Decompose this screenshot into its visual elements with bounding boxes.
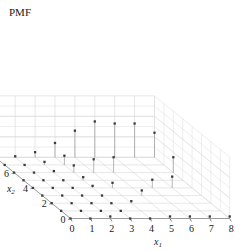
data-marker bbox=[22, 179, 24, 181]
data-marker bbox=[91, 185, 93, 187]
data-marker bbox=[120, 210, 122, 212]
data-marker bbox=[101, 194, 103, 196]
x1-tick-label: 3 bbox=[129, 223, 134, 234]
data-marker bbox=[73, 164, 75, 166]
x1-tick-label: 2 bbox=[109, 223, 114, 234]
data-marker bbox=[109, 215, 111, 217]
x1-tick-label: 7 bbox=[209, 223, 214, 234]
data-marker bbox=[111, 182, 113, 184]
data-marker bbox=[63, 155, 65, 157]
data-marker bbox=[172, 156, 174, 158]
data-marker bbox=[34, 151, 36, 153]
data-marker bbox=[171, 175, 173, 177]
x1-tick-labels: 012345678 bbox=[70, 223, 234, 234]
data-marker bbox=[51, 202, 53, 204]
data-marker bbox=[100, 210, 102, 212]
data-marker bbox=[61, 194, 63, 196]
data-marker bbox=[4, 164, 6, 166]
data-marker bbox=[23, 164, 25, 166]
data-marker bbox=[169, 215, 171, 217]
data-marker bbox=[114, 122, 116, 124]
data-marker bbox=[72, 187, 74, 189]
data-marker bbox=[13, 171, 15, 173]
data-marker bbox=[129, 217, 131, 219]
x1-tick-label: 8 bbox=[229, 223, 234, 234]
data-marker bbox=[62, 179, 64, 181]
plot-background bbox=[0, 0, 240, 251]
data-marker bbox=[153, 132, 155, 134]
data-marker bbox=[209, 215, 211, 217]
data-marker bbox=[229, 215, 231, 217]
data-marker bbox=[42, 179, 44, 181]
data-marker bbox=[89, 217, 91, 219]
data-marker bbox=[53, 170, 55, 172]
x1-tick-label: 4 bbox=[149, 223, 154, 234]
x2-tick-label: 0 bbox=[61, 214, 66, 225]
data-marker bbox=[149, 217, 151, 219]
data-marker bbox=[93, 158, 95, 160]
data-marker bbox=[70, 202, 72, 204]
x2-tick-label: 4 bbox=[23, 183, 28, 194]
data-marker bbox=[141, 189, 143, 191]
data-marker bbox=[41, 194, 43, 196]
plot-title: PMF bbox=[9, 6, 31, 18]
data-marker bbox=[80, 210, 82, 212]
data-marker bbox=[90, 202, 92, 204]
pmf-3d-stem-plot: 012345678 02468 0.040.080.12 PMF x1 x2 bbox=[0, 0, 240, 251]
data-marker bbox=[112, 156, 114, 158]
data-marker bbox=[52, 187, 54, 189]
data-marker bbox=[133, 122, 135, 124]
x2-tick-label: 2 bbox=[42, 198, 47, 209]
data-marker bbox=[189, 215, 191, 217]
data-marker bbox=[43, 161, 45, 163]
data-marker bbox=[151, 179, 153, 181]
data-marker bbox=[130, 200, 132, 202]
data-marker bbox=[74, 130, 76, 132]
x2-tick-label: 6 bbox=[4, 168, 9, 179]
data-marker bbox=[54, 142, 56, 144]
data-marker bbox=[82, 176, 84, 178]
x1-tick-label: 6 bbox=[189, 223, 194, 234]
x1-tick-label: 1 bbox=[89, 223, 94, 234]
data-marker bbox=[60, 210, 62, 212]
data-marker bbox=[94, 120, 96, 122]
x1-tick-label: 0 bbox=[70, 223, 75, 234]
data-marker bbox=[110, 202, 112, 204]
x1-tick-label: 5 bbox=[169, 223, 174, 234]
data-marker bbox=[14, 155, 16, 157]
data-marker bbox=[33, 171, 35, 173]
data-marker bbox=[69, 217, 71, 219]
data-marker bbox=[81, 194, 83, 196]
data-marker bbox=[32, 187, 34, 189]
